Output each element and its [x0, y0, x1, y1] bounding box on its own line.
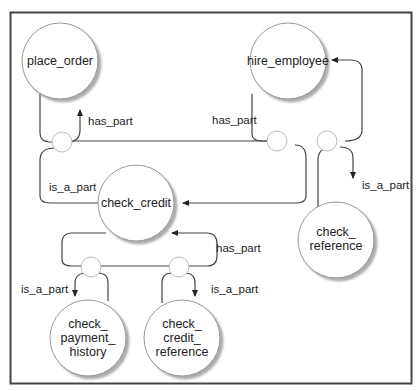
node-label: check_	[162, 317, 203, 331]
node-label: check_	[68, 317, 109, 331]
junction-nodes	[52, 131, 337, 277]
junction-credit-reference	[169, 257, 189, 277]
node-label: credit_	[163, 331, 202, 345]
junction-payment-history	[81, 257, 101, 277]
node-label: hire_employee	[247, 54, 329, 68]
node-check-credit: check_credit	[98, 165, 174, 241]
semantic-network-diagram: place_order hire_employee check_credit c…	[0, 0, 418, 391]
node-label: payment_	[61, 331, 117, 345]
node-check-reference: check_ reference	[298, 202, 374, 278]
edge-label-check-credit-has-part: has_part	[216, 242, 262, 254]
node-label: reference	[310, 239, 363, 253]
edge-label-place-order-has-part: has_part	[88, 115, 134, 127]
edge-label-payment-history-is-a-part: is_a_part	[21, 283, 69, 295]
junction-hire-check-credit	[267, 131, 287, 151]
edge-label-check-reference-is-a-part: is_a_part	[362, 179, 410, 191]
node-label: place_order	[27, 54, 93, 68]
junction-place-order	[52, 132, 72, 152]
node-label: history	[70, 345, 108, 359]
edge-label-hire-employee-has-part: has_part	[212, 114, 258, 126]
node-label: reference	[156, 345, 209, 359]
edge-label-credit-reference-is-a-part: is_a_part	[211, 283, 259, 295]
node-hire-employee: hire_employee	[247, 23, 329, 99]
junction-hire-check-reference	[317, 131, 337, 151]
node-place-order: place_order	[22, 23, 98, 99]
node-check-payment-history: check_ payment_ history	[50, 300, 126, 376]
edge-label-check-credit-is-a-part: is_a_part	[49, 181, 97, 193]
node-label: check_credit	[101, 196, 172, 210]
node-check-credit-reference: check_ credit_ reference	[144, 300, 220, 376]
node-label: check_	[316, 225, 357, 239]
